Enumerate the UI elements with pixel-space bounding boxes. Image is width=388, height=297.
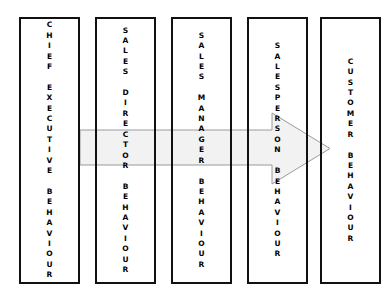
box-label-sales-director: S A L E S D I R E C T O R B E H A V I O … [97,26,154,276]
box-sales-manager[interactable]: S A L E S M A N A G E R B E H A V I O U … [171,17,232,284]
box-salesperson[interactable]: S A L E S P E R S O N B E H A V I O U R [247,17,308,284]
box-chief-executive[interactable]: C H I E F E X E C U T I V E B E H A V I … [19,17,80,284]
box-label-chief-executive: C H I E F E X E C U T I V E B E H A V I … [21,20,78,280]
box-label-sales-manager: S A L E S M A N A G E R B E H A V I O U … [173,31,230,270]
diagram-canvas: C H I E F E X E C U T I V E B E H A V I … [0,0,388,297]
box-sales-director[interactable]: S A L E S D I R E C T O R B E H A V I O … [95,17,156,284]
box-customer[interactable]: C U S T O M E R B E H A V I O U R [320,17,381,284]
box-label-customer: C U S T O M E R B E H A V I O U R [322,57,379,244]
box-label-salesperson: S A L E S P E R S O N B E H A V I O U R [249,41,306,260]
